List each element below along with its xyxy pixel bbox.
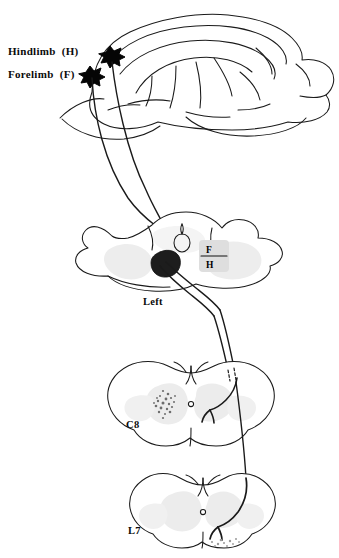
- c8-label: C8: [126, 419, 139, 430]
- fh-marker-box: [199, 240, 229, 272]
- diagram-svg: [0, 0, 339, 558]
- l7-section: [130, 474, 276, 549]
- hindlimb-label: Hindlimb (H): [8, 45, 79, 57]
- figure-canvas: Hindlimb (H) Forelimb (F) Left C8 L7 F H: [0, 0, 339, 558]
- forelimb-label: Forelimb (F): [8, 68, 75, 80]
- corticospinal-axons-cervical-approach: [214, 310, 234, 370]
- c8-section: [108, 362, 275, 447]
- l7-label: L7: [128, 525, 141, 536]
- fh-forelimb-label: F: [206, 245, 212, 255]
- fh-hindlimb-label: H: [206, 260, 213, 270]
- left-label: Left: [143, 296, 163, 307]
- medulla-section: [76, 212, 283, 291]
